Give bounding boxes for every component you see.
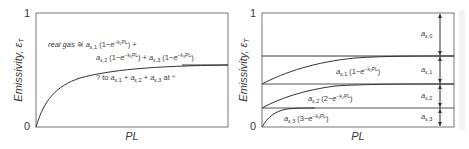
right-y-tick-1: 1 — [250, 7, 256, 19]
left-annotation-line1: real gas ≅ aε,1 (1−e−k₁PL) + — [48, 39, 137, 50]
left-emissivity-diagram: 1 0 Emissivity, εT PL real gas ≅ aε,1 (1… — [0, 0, 235, 149]
edge-artifact — [459, 10, 465, 130]
left-y-tick-1: 1 — [24, 7, 30, 19]
right-y-axis-label: Emissivity, εT — [237, 38, 250, 102]
left-annotation-line2: aε,2 (1−e−k₂PL) + aε,3 (1−e−k₃PL) — [96, 52, 194, 63]
left-y-tick-0: 0 — [24, 120, 30, 132]
left-annotation-line3: ? to aε,1 + aε,2 + aε,3 at ∞ — [96, 73, 176, 83]
left-plot-svg: 1 0 Emissivity, εT PL real gas ≅ aε,1 (1… — [0, 0, 235, 149]
curve-label-3: aε,3 (3−e−k₃PL) — [284, 113, 329, 124]
curve-label-2: aε,2 (2−e−k₂PL) — [308, 93, 353, 104]
left-y-axis-label: Emissivity, εT — [12, 38, 25, 102]
left-x-axis-label: PL — [125, 130, 138, 142]
band-label-2: aε,2 — [421, 91, 432, 101]
band-label-3: aε,3 — [421, 112, 432, 122]
right-y-tick-0: 0 — [250, 120, 256, 132]
band-label-0: aε,0 — [421, 29, 432, 39]
right-x-axis-label: PL — [351, 130, 364, 142]
left-plot-frame — [36, 13, 228, 127]
band-label-1: aε,1 — [421, 65, 432, 75]
right-plot-svg: 1 0 Emissivity, εT PL aε,1 (1−e−k₁PL) aε… — [235, 0, 469, 149]
right-emissivity-diagram: 1 0 Emissivity, εT PL aε,1 (1−e−k₁PL) aε… — [235, 0, 469, 149]
curve-label-1: aε,1 (1−e−k₁PL) — [336, 66, 381, 77]
